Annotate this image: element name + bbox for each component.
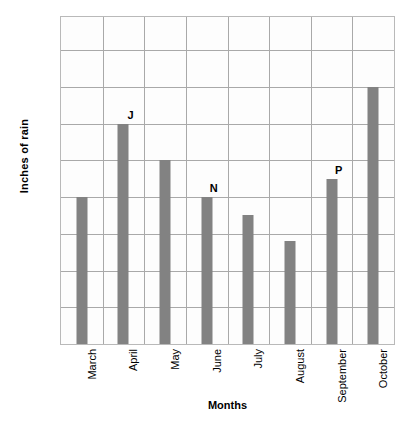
x-gridline [186, 17, 187, 344]
bar-june [201, 197, 212, 344]
bar-annotation-june: N [210, 182, 218, 194]
x-gridline [228, 17, 229, 344]
x-gridline [144, 17, 145, 344]
x-gridline [269, 17, 270, 344]
bar-annotation-september: P [335, 164, 342, 176]
bar-annotation-april: J [127, 109, 133, 121]
plot-area: JNP [60, 16, 395, 345]
x-gridline [311, 17, 312, 344]
x-gridline [352, 17, 353, 344]
x-tick-label-may: May [169, 349, 181, 370]
x-tick-label-june: June [211, 349, 223, 373]
plot-inner: JNP [61, 17, 394, 344]
rainfall-bar-chart: Inches of rain JNP Months 12345678MarchA… [0, 0, 420, 421]
bar-march [76, 197, 87, 344]
x-tick-label-march: March [86, 349, 98, 380]
bar-april [118, 124, 129, 344]
x-tick-label-october: October [377, 349, 389, 388]
x-tick-label-september: September [336, 349, 348, 403]
x-tick-label-july: July [252, 349, 264, 369]
bar-october [368, 87, 379, 344]
bar-july [243, 215, 254, 344]
bar-may [160, 160, 171, 344]
bar-september [326, 179, 337, 344]
x-tick-label-april: April [127, 349, 139, 371]
bar-august [284, 241, 295, 344]
y-axis-title: Inches of rain [18, 76, 30, 236]
x-gridline [103, 17, 104, 344]
x-tick-label-august: August [294, 349, 306, 383]
